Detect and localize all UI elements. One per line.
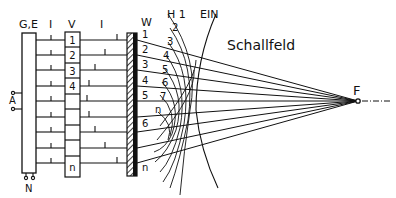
svg-text:4: 4 [142, 75, 148, 86]
svg-text:4: 4 [69, 81, 75, 92]
focus-point [356, 99, 360, 103]
svg-text:7: 7 [160, 91, 166, 102]
generator-block [22, 33, 36, 173]
svg-text:5: 5 [162, 64, 168, 75]
svg-text:2: 2 [172, 22, 178, 33]
svg-text:2: 2 [142, 44, 148, 55]
label-i-right: I [100, 18, 103, 31]
label-i-left: I [49, 18, 52, 31]
label-a: A [9, 95, 16, 106]
svg-text:n: n [155, 104, 161, 115]
svg-text:n: n [69, 162, 75, 173]
label-f: F [353, 83, 360, 98]
svg-text:3: 3 [69, 66, 75, 77]
transducer-elements [133, 33, 137, 176]
label-ein: EIN [200, 8, 218, 21]
svg-text:6: 6 [162, 77, 168, 88]
label-w: W [141, 16, 152, 29]
svg-text:n: n [142, 162, 148, 173]
terminal-n [24, 173, 34, 180]
label-schallfeld: Schallfeld [227, 37, 295, 53]
delayed-lines [80, 34, 128, 163]
phased-array-diagram: 1 2 3 4 n [0, 0, 396, 198]
beam-lines [137, 40, 358, 163]
svg-text:1: 1 [69, 35, 75, 46]
label-n: N [25, 183, 32, 194]
svg-text:3: 3 [142, 59, 148, 70]
svg-text:3: 3 [167, 36, 173, 47]
label-v: V [68, 18, 76, 31]
generator-lines [36, 35, 65, 163]
svg-text:4: 4 [163, 50, 169, 61]
label-h1: H 1 [167, 8, 186, 21]
svg-text:2: 2 [69, 50, 75, 61]
svg-text:6: 6 [142, 118, 148, 129]
label-ge: G,E [19, 18, 38, 31]
svg-text:1: 1 [142, 29, 148, 40]
svg-text:5: 5 [142, 90, 148, 101]
